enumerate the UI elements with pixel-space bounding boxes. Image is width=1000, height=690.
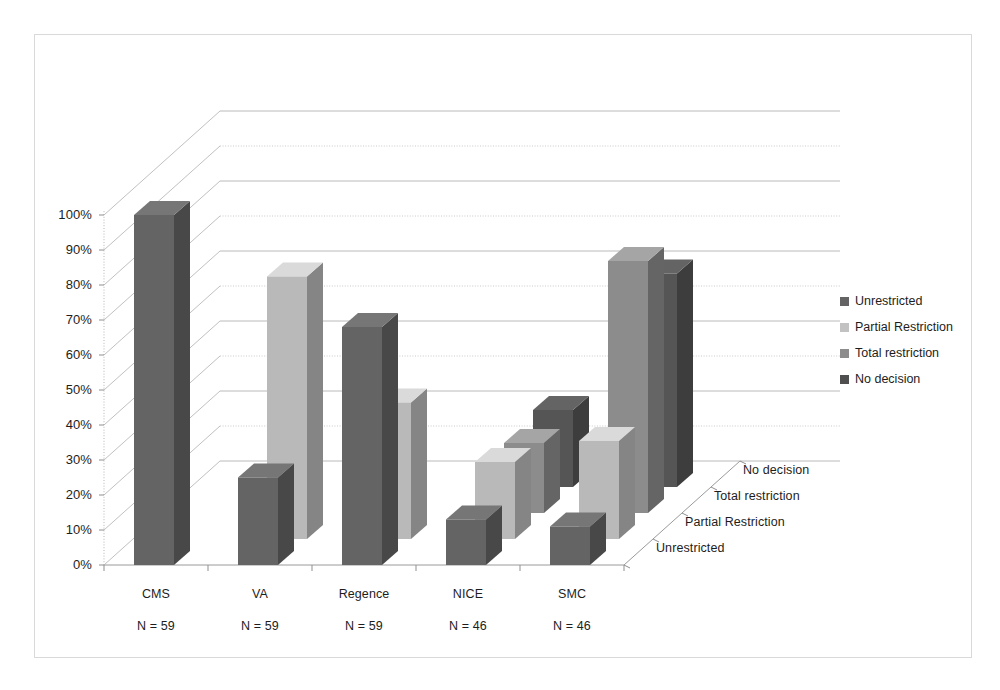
legend-item-label: Partial Restriction — [855, 321, 953, 334]
x-axis-sample-size-label: N = 59 — [316, 619, 412, 633]
legend-item[interactable]: Unrestricted — [840, 288, 953, 314]
y-axis-tick-label: 50% — [40, 382, 92, 397]
bar-nice-unrestricted — [446, 506, 502, 566]
x-axis-sample-size-label: N = 59 — [108, 619, 204, 633]
x-axis-category-label: NICE — [420, 587, 516, 601]
x-axis-category-label: CMS — [108, 587, 204, 601]
legend-swatch-icon — [840, 375, 849, 384]
bar-va-unrestricted — [238, 464, 294, 566]
y-axis-tick-label: 20% — [40, 487, 92, 502]
bar-smc-unrestricted — [550, 513, 606, 566]
legend-item-label: No decision — [855, 373, 920, 386]
chart-legend: UnrestrictedPartial RestrictionTotal res… — [840, 288, 953, 392]
legend-swatch-icon — [840, 323, 849, 332]
legend-swatch-icon — [840, 297, 849, 306]
y-axis-tick-label: 90% — [40, 242, 92, 257]
depth-axis-label: Partial Restriction — [685, 515, 785, 529]
legend-item-label: Total restriction — [855, 347, 939, 360]
legend-item[interactable]: Total restriction — [840, 340, 953, 366]
y-axis-tick-label: 80% — [40, 277, 92, 292]
y-axis-tick-label: 30% — [40, 452, 92, 467]
y-axis-tick-label: 100% — [40, 207, 92, 222]
depth-axis-label: No decision — [743, 463, 809, 477]
depth-axis-label: Total restriction — [714, 489, 800, 503]
bar-cms-unrestricted — [134, 201, 190, 565]
depth-axis-label: Unrestricted — [656, 541, 725, 555]
y-axis-tick-label: 40% — [40, 417, 92, 432]
legend-item-label: Unrestricted — [855, 295, 922, 308]
legend-item[interactable]: Partial Restriction — [840, 314, 953, 340]
legend-swatch-icon — [840, 349, 849, 358]
y-axis-tick-label: 70% — [40, 312, 92, 327]
x-axis-sample-size-label: N = 59 — [212, 619, 308, 633]
y-axis-tick-label: 10% — [40, 522, 92, 537]
x-axis-category-label: Regence — [316, 587, 412, 601]
x-axis-sample-size-label: N = 46 — [524, 619, 620, 633]
legend-item[interactable]: No decision — [840, 366, 953, 392]
x-axis-category-label: VA — [212, 587, 308, 601]
x-axis-sample-size-label: N = 46 — [420, 619, 516, 633]
y-axis-tick-label: 60% — [40, 347, 92, 362]
y-axis-tick-label: 0% — [40, 557, 92, 572]
bar-regence-unrestricted — [342, 313, 398, 565]
x-axis-category-label: SMC — [524, 587, 620, 601]
